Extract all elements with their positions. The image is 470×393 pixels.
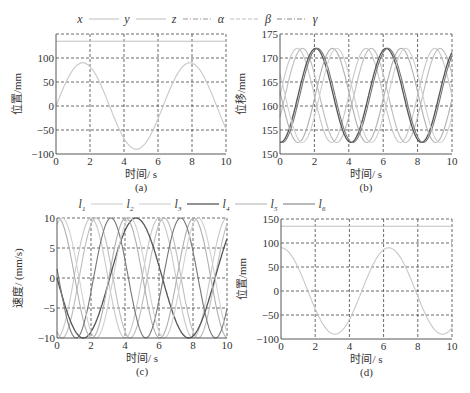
y-tick-label: 10 — [44, 212, 56, 224]
legend-mid: l1l2l3l4l5l6 — [79, 197, 326, 213]
panel-label: (a) — [135, 181, 148, 194]
x-tick-label: 6 — [381, 340, 387, 352]
x-tick-label: 0 — [277, 155, 283, 167]
y-tick-label: −5 — [43, 302, 55, 314]
y-tick-label: 155 — [262, 124, 279, 136]
chart-panel-b: 0246810150155160165170175时间/ s位移/mm(b) — [234, 28, 458, 194]
x-tick-label: 6 — [155, 155, 161, 167]
x-tick-label: 4 — [346, 155, 352, 167]
x-tick-label: 6 — [380, 155, 386, 167]
chart-panel-d: 0246810−100−50050100150时间/ s位置/mm(d) — [235, 213, 458, 379]
y-tick-label: 165 — [262, 76, 279, 88]
legend-label: y — [123, 12, 130, 26]
x-tick-label: 8 — [190, 339, 196, 351]
panel-label: (c) — [136, 365, 149, 378]
y-tick-label: 150 — [262, 148, 279, 160]
x-tick-label: 4 — [347, 340, 353, 352]
legend-top: xyzαβγ — [76, 12, 317, 26]
y-tick-label: −50 — [262, 309, 280, 321]
legend-label: α — [218, 12, 225, 26]
legend-label: l5 — [271, 197, 278, 213]
x-tick-label: 10 — [221, 155, 233, 167]
x-tick-label: 8 — [189, 155, 195, 167]
y-tick-label: 50 — [268, 261, 280, 273]
panel-label: (b) — [360, 181, 373, 194]
x-tick-label: 6 — [156, 339, 162, 351]
x-tick-label: 10 — [222, 339, 234, 351]
chart-panel-c: 0246810−10−50510时间/ s速度/ (mm/s)(c) — [11, 212, 233, 378]
legend-label: l4 — [223, 197, 230, 213]
figure-canvas: xyzαβγ l1l2l3l4l5l6 0246810−100−50050100… — [0, 0, 470, 393]
y-tick-label: 150 — [263, 213, 280, 225]
x-axis-label: 时间/ s — [126, 352, 158, 364]
x-tick-label: 0 — [53, 155, 59, 167]
legend-label: l6 — [319, 197, 326, 213]
panel-label: (d) — [360, 366, 373, 379]
y-axis-label: 位移/mm — [234, 72, 247, 115]
x-tick-label: 2 — [312, 155, 318, 167]
x-tick-label: 8 — [415, 155, 421, 167]
y-tick-label: 50 — [43, 76, 55, 88]
y-axis-label: 速度/ (mm/s) — [11, 248, 25, 308]
x-tick-label: 0 — [278, 340, 284, 352]
y-tick-label: −50 — [37, 124, 55, 136]
x-tick-label: 4 — [121, 155, 127, 167]
legend-label: γ — [313, 12, 318, 26]
x-tick-label: 4 — [122, 339, 128, 351]
x-tick-label: 10 — [447, 155, 459, 167]
legend-label: z — [171, 12, 177, 26]
y-tick-label: 175 — [262, 28, 279, 40]
x-tick-label: 0 — [54, 339, 60, 351]
x-tick-label: 2 — [87, 155, 93, 167]
y-tick-label: 5 — [50, 242, 56, 254]
chart-panel-a: 0246810−100−50050100时间/ s位置/mm(a) — [10, 34, 232, 194]
legend-label: l2 — [127, 197, 134, 213]
y-tick-label: 170 — [262, 52, 279, 64]
x-axis-label: 时间/ s — [350, 353, 382, 365]
y-tick-label: −10 — [38, 332, 56, 344]
legend-label: β — [264, 12, 271, 26]
legend-label: l3 — [175, 197, 182, 213]
x-axis-label: 时间/ s — [125, 168, 157, 180]
y-tick-label: 0 — [274, 285, 280, 297]
y-tick-label: 100 — [38, 52, 55, 64]
x-axis-label: 时间/ s — [350, 168, 382, 180]
series-line — [280, 48, 452, 142]
y-tick-label: 100 — [263, 237, 280, 249]
x-tick-label: 2 — [312, 340, 318, 352]
y-tick-label: 0 — [50, 272, 56, 284]
y-axis-label: 位置/mm — [235, 257, 248, 300]
y-tick-label: −100 — [31, 148, 54, 160]
x-tick-label: 8 — [415, 340, 421, 352]
legend-label: x — [76, 12, 83, 26]
legend-label: l1 — [79, 197, 86, 213]
y-tick-label: −100 — [256, 333, 279, 345]
x-tick-label: 2 — [88, 339, 94, 351]
y-axis-label: 位置/mm — [10, 72, 23, 115]
y-tick-label: 0 — [49, 100, 55, 112]
x-tick-label: 10 — [447, 340, 459, 352]
y-tick-label: 160 — [262, 100, 279, 112]
